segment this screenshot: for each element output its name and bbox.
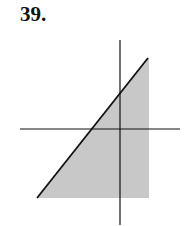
region-graph [0,0,185,226]
